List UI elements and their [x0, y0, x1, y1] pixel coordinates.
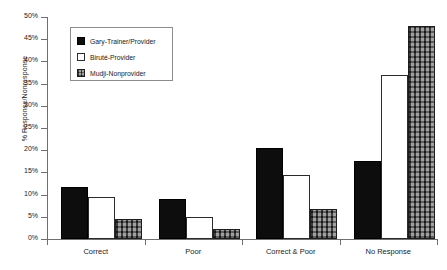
bar: [159, 199, 186, 239]
bar: [213, 229, 240, 239]
x-axis-label: No Response: [340, 247, 438, 256]
y-axis-tick: 10%: [41, 195, 48, 196]
y-axis-tick: 50%: [41, 17, 48, 18]
bar: [115, 219, 142, 239]
chart-legend: Gary-Trainer/ProviderBiruté-ProviderMudj…: [70, 27, 173, 81]
y-axis-tick-label: 45%: [24, 34, 38, 41]
x-axis-tick: [340, 239, 341, 245]
y-axis-tick-label: 15%: [24, 167, 38, 174]
y-axis-tick: 40%: [41, 61, 48, 62]
legend-item: Gary-Trainer/Provider: [77, 34, 172, 48]
bar: [408, 26, 435, 239]
x-axis-tick: [242, 239, 243, 245]
legend-label: Mudji-Nonprovider: [90, 70, 146, 77]
y-axis-tick: 20%: [41, 150, 48, 151]
bar: [381, 75, 408, 239]
y-axis-tick-label: 30%: [24, 101, 38, 108]
legend-swatch-icon: [77, 37, 85, 45]
y-axis-tick: 45%: [41, 39, 48, 40]
y-axis-tick: 5%: [41, 217, 48, 218]
bar-group: [354, 17, 435, 239]
bar-group: [256, 17, 337, 239]
y-axis-tick-label: 50%: [24, 12, 38, 19]
legend-item: Mudji-Nonprovider: [77, 66, 172, 80]
bar: [88, 197, 115, 239]
x-axis-tick: [145, 239, 146, 245]
legend-label: Gary-Trainer/Provider: [90, 38, 155, 45]
y-axis-tick-label: 10%: [24, 190, 38, 197]
x-axis-label: Poor: [145, 247, 243, 256]
legend-label: Biruté-Provider: [90, 54, 135, 61]
x-axis-tick: [47, 239, 48, 245]
bar: [283, 175, 310, 239]
legend-swatch-icon: [77, 53, 85, 61]
bar: [186, 217, 213, 239]
y-axis-tick-label: 5%: [28, 212, 38, 219]
y-axis-tick-label: 25%: [24, 123, 38, 130]
bar: [256, 148, 283, 239]
y-axis-tick-label: 35%: [24, 79, 38, 86]
bar: [310, 209, 337, 239]
x-axis-label: Correct: [47, 247, 145, 256]
y-axis-tick-label: 20%: [24, 145, 38, 152]
y-axis-tick-label: 0%: [28, 234, 38, 241]
bar: [61, 187, 88, 239]
bar: [354, 161, 381, 239]
y-axis-tick-label: 40%: [24, 56, 38, 63]
y-axis-tick: 30%: [41, 106, 48, 107]
y-axis-tick: 15%: [41, 172, 48, 173]
legend-swatch-icon: [77, 69, 85, 77]
bar-chart: % Response/Nonresponse 0%5%10%15%20%25%3…: [0, 0, 447, 270]
legend-item: Biruté-Provider: [77, 50, 172, 64]
y-axis-tick: 25%: [41, 128, 48, 129]
y-axis-tick: 35%: [41, 84, 48, 85]
x-axis-label: Correct & Poor: [242, 247, 340, 256]
x-axis-tick: [437, 239, 438, 245]
